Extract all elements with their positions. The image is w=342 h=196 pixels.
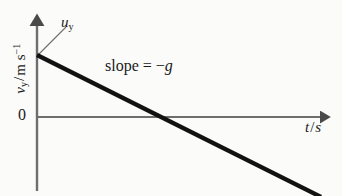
y-axis-label-unit-exponent: −1: [11, 44, 22, 55]
slope-annotation-minus: −: [156, 57, 165, 74]
y-axis-label-subscript: y: [18, 82, 29, 87]
origin-tick-label: 0: [18, 107, 26, 123]
initial-velocity-variable: u: [61, 14, 69, 30]
slope-annotation-prefix: slope =: [105, 57, 156, 74]
y-axis-label-separator: /: [12, 76, 28, 82]
y-axis-label: vy/m s−1: [12, 21, 29, 117]
slope-annotation: slope = −g: [105, 58, 173, 74]
velocity-data-line: [37, 55, 321, 196]
initial-velocity-label: uy: [61, 15, 74, 32]
y-axis-label-unit: m s: [12, 54, 28, 75]
slope-annotation-variable: g: [165, 57, 173, 74]
initial-velocity-subscript: y: [69, 21, 74, 32]
velocity-time-graph: vy/m s−1 0 t/s slope = −g uy: [0, 0, 342, 196]
y-axis-label-variable: v: [12, 87, 28, 94]
x-axis-label: t/s: [305, 120, 321, 135]
plot-area: [0, 0, 342, 196]
x-axis-label-unit: s: [315, 119, 321, 135]
